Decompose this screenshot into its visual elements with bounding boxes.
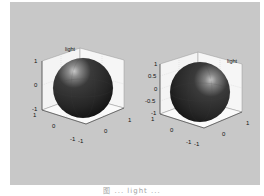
y-tick: -1 (70, 136, 76, 142)
y-tick: 1 (33, 112, 37, 118)
z-tick: 0 (154, 86, 158, 92)
light-label: light (227, 58, 238, 64)
sphere-plot-right: light 1 0.5 0 -0.5 -1 1 0 -1 -1 0 1 (142, 44, 260, 149)
y-tick: 0 (52, 123, 56, 129)
sphere-surface (170, 62, 230, 122)
y-tick: -1 (186, 139, 192, 145)
sphere-plot-left: light 1 0 -1 1 0 -1 -1 0 1 (32, 44, 144, 149)
z-tick: 0.5 (148, 73, 157, 79)
y-tick: 0 (170, 127, 174, 133)
light-label: light (65, 46, 76, 52)
subplot-right: light 1 0.5 0 -0.5 -1 1 0 -1 -1 0 1 (142, 44, 260, 149)
figure-caption: 图 ... light ... (0, 185, 264, 196)
x-tick: -1 (194, 141, 200, 147)
figure-window: light 1 0 -1 1 0 -1 -1 0 1 (10, 2, 260, 185)
x-tick: 0 (222, 131, 226, 137)
x-tick: -1 (78, 138, 84, 144)
subplot-left: light 1 0 -1 1 0 -1 -1 0 1 (32, 44, 144, 149)
x-tick: 1 (128, 117, 132, 123)
x-tick: 1 (246, 120, 250, 126)
z-tick: 1 (154, 61, 158, 67)
x-tick: 0 (104, 128, 108, 134)
y-tick: 1 (151, 116, 155, 122)
sphere-surface (53, 58, 113, 118)
z-tick: 0 (34, 82, 38, 88)
z-tick: -0.5 (145, 98, 156, 104)
z-tick: 1 (34, 58, 38, 64)
